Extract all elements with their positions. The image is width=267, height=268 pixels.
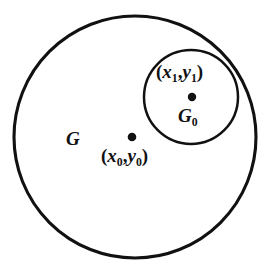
inner-region-label: G0 [178, 106, 198, 125]
outer-center-point [128, 133, 137, 142]
close-paren-icon: ) [142, 145, 148, 166]
close-paren-icon: ) [197, 61, 203, 82]
inner-point-x-subscript: 1 [172, 72, 178, 85]
inner-point-y-var: y [182, 61, 190, 82]
inner-point-x-var: x [162, 61, 172, 82]
inner-point-label: (x1,y1) [156, 62, 203, 81]
outer-point-label: (x0,y0) [101, 146, 148, 165]
outer-point-y-var: y [127, 145, 135, 166]
outer-region-symbol: G [66, 128, 80, 149]
inner-region-symbol: G [178, 105, 192, 126]
inner-point-y-subscript: 1 [191, 72, 197, 85]
outer-point-y-subscript: 0 [136, 156, 142, 169]
outer-region-label: G [66, 129, 80, 148]
outer-point-x-subscript: 0 [117, 156, 123, 169]
inner-center-point [188, 93, 196, 101]
figure-canvas: G (x0,y0) (x1,y1) G0 [0, 0, 267, 268]
circles-diagram-svg [0, 0, 267, 268]
outer-point-x-var: x [107, 145, 117, 166]
inner-region-subscript: 0 [192, 116, 198, 129]
